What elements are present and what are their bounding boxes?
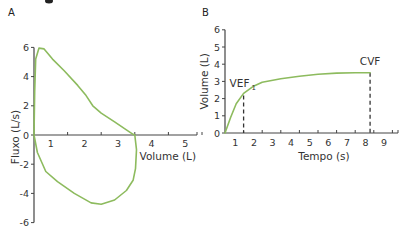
x-axis-label: Tempo (s) — [297, 150, 349, 162]
y-tick-label: 0 — [214, 128, 220, 139]
x-tick-label: 5 — [182, 138, 188, 149]
y-tick-label: 4 — [23, 71, 29, 82]
y-axis-label: Fluxo (L/s) — [9, 110, 21, 164]
x-tick-label: 2 — [81, 138, 87, 149]
y-tick-label: 0 — [23, 130, 29, 141]
x-tick-label: 9 — [381, 137, 387, 148]
vef1-label: VEF — [230, 77, 250, 89]
x-tick-label: 5 — [307, 137, 313, 148]
panel-label-b: B — [202, 7, 209, 18]
vef1-subscript: 1 — [252, 84, 256, 92]
chart-a: 123456420-2-4-6Volume (L)Fluxo (L/s) — [9, 42, 202, 228]
y-axis-label: Volume (L) — [198, 53, 210, 109]
x-tick-label: 4 — [149, 138, 155, 149]
figure: A B 123456420-2-4-6Volume (L)Fluxo (L/s)… — [0, 0, 403, 235]
x-axis-label: Volume (L) — [140, 150, 196, 162]
chart-b: 1234567890123456Tempo (s)Volume (L)VEF1C… — [198, 24, 398, 162]
y-tick-label: 6 — [23, 42, 29, 53]
y-tick-label: 6 — [214, 24, 220, 35]
x-tick-label: 2 — [251, 137, 257, 148]
x-tick-label: 1 — [48, 138, 54, 149]
y-tick-label: 1 — [214, 110, 220, 121]
y-tick-label: 2 — [23, 100, 29, 111]
y-tick-label: 4 — [214, 59, 220, 70]
y-tick-label: 3 — [214, 76, 220, 87]
x-tick-label: 7 — [344, 137, 350, 148]
y-tick-label: 2 — [214, 93, 220, 104]
cvf-label: CVF — [360, 55, 381, 67]
x-tick-label: 3 — [269, 137, 275, 148]
y-tick-label: -4 — [20, 188, 29, 199]
y-tick-label: 5 — [214, 42, 220, 53]
flow-volume-curve — [34, 48, 137, 204]
panel-label-a: A — [8, 7, 15, 18]
x-tick-label: 3 — [115, 138, 121, 149]
clipped-header-mark — [45, 0, 53, 4]
x-tick-label: 4 — [288, 137, 294, 148]
y-tick-label: -6 — [20, 217, 29, 228]
x-tick-label: 1 — [232, 137, 238, 148]
x-tick-label: 8 — [362, 137, 368, 148]
x-tick-label: 6 — [325, 137, 331, 148]
